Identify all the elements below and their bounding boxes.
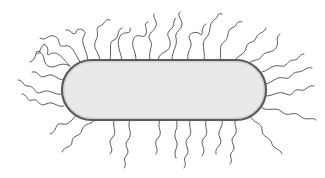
- bacterium-svg: [0, 0, 325, 178]
- bacterium-illustration: rod-shaped bacterium with peritrichous f…: [0, 0, 325, 178]
- cell-body: [62, 60, 266, 120]
